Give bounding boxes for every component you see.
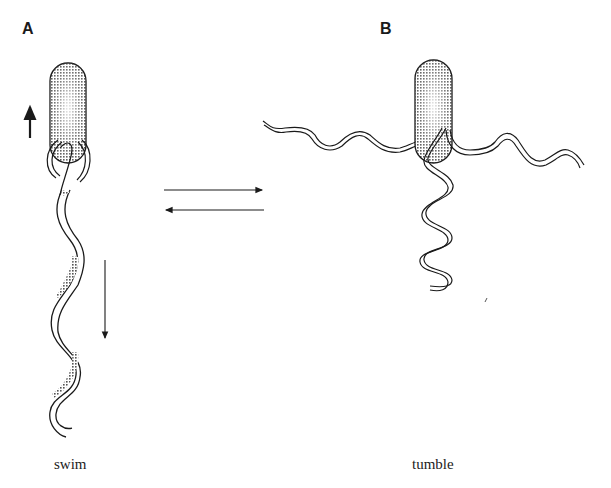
caption-swim: swim: [54, 456, 87, 473]
caption-tumble: tumble: [412, 456, 454, 473]
diagram-canvas: [0, 0, 611, 488]
transition-arrows: [164, 190, 264, 210]
tumble-cell-group: [263, 60, 584, 302]
swim-cell-group: [30, 63, 105, 437]
